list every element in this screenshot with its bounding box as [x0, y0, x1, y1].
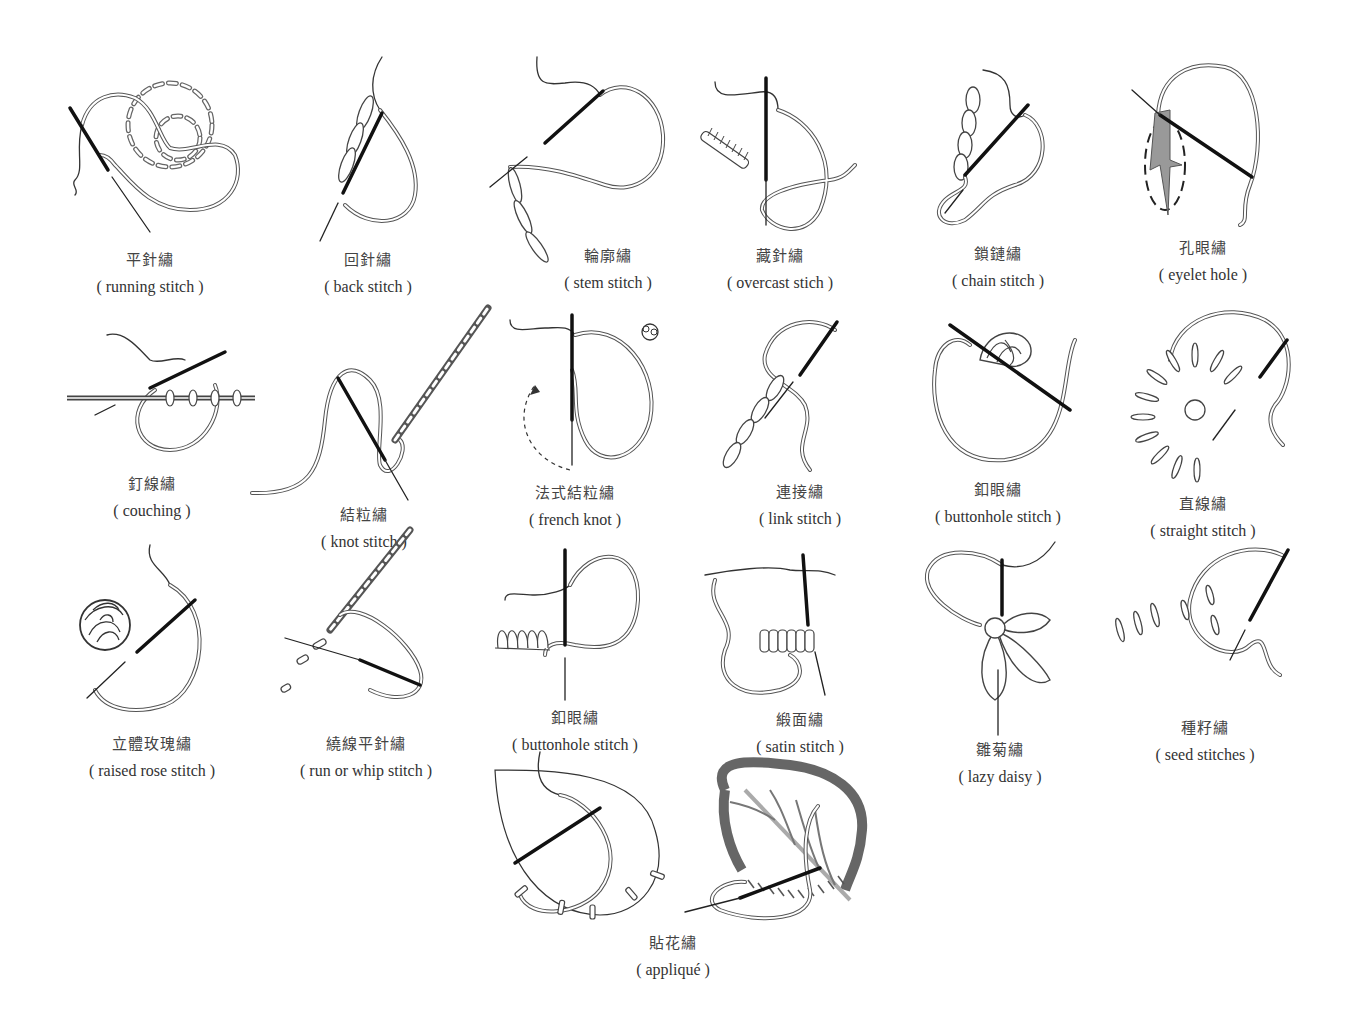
label-applique: 貼花繡 ( appliqué )	[636, 933, 710, 981]
applique-illustration	[490, 750, 870, 930]
raised-rose-stitch-illustration	[75, 540, 215, 725]
eyelet-hole-illustration	[1130, 55, 1280, 235]
label-link-stitch: 連接繡 ( link stitch )	[759, 482, 841, 530]
label-seed-stitches: 種籽繡 ( seed stitches )	[1155, 718, 1254, 766]
label-straight-stitch: 直線繡 ( straight stitch )	[1150, 494, 1255, 542]
back-stitch-illustration	[310, 55, 440, 245]
overcast-stitch-illustration	[700, 70, 870, 240]
label-buttonhole-stitch-2: 釦眼繡 ( buttonhole stitch )	[512, 708, 638, 756]
knot-stitch-illustration	[250, 300, 500, 505]
label-stem-stitch: 輪廓繡 ( stem stitch )	[564, 246, 652, 294]
label-french-knot: 法式結粒繡 ( french knot )	[529, 483, 621, 531]
lazy-daisy-illustration	[920, 540, 1070, 740]
label-whip-stitch: 繞線平針繡 ( run or whip stitch )	[300, 734, 432, 782]
label-running-stitch: 平針繡 ( running stitch )	[96, 250, 203, 298]
whip-stitch-illustration	[270, 520, 450, 720]
buttonhole-stitch-2-illustration	[490, 540, 660, 705]
satin-stitch-illustration	[700, 540, 860, 705]
couching-illustration	[65, 330, 265, 460]
chain-stitch-illustration	[925, 65, 1065, 235]
label-lazy-daisy: 雛菊繡 ( lazy daisy )	[958, 740, 1041, 788]
stem-stitch-illustration	[485, 55, 675, 275]
french-knot-illustration	[500, 310, 675, 470]
label-back-stitch: 回針繡 ( back stitch )	[324, 250, 412, 298]
label-chain-stitch: 鎖鏈繡 ( chain stitch )	[952, 244, 1044, 292]
running-stitch-illustration	[60, 70, 260, 240]
label-buttonhole-stitch: 釦眼繡 ( buttonhole stitch )	[935, 480, 1061, 528]
label-eyelet-hole: 孔眼繡 ( eyelet hole )	[1159, 238, 1247, 286]
straight-stitch-illustration	[1115, 305, 1305, 490]
buttonhole-stitch-illustration	[925, 310, 1085, 470]
label-overcast-stitch: 藏針繡 ( overcast stich )	[727, 246, 833, 294]
link-stitch-illustration	[715, 310, 865, 480]
label-raised-rose-stitch: 立體玫瑰繡 ( raised rose stitch )	[89, 734, 215, 782]
seed-stitches-illustration	[1110, 545, 1300, 685]
label-couching: 釘線繡 ( couching )	[113, 474, 190, 522]
